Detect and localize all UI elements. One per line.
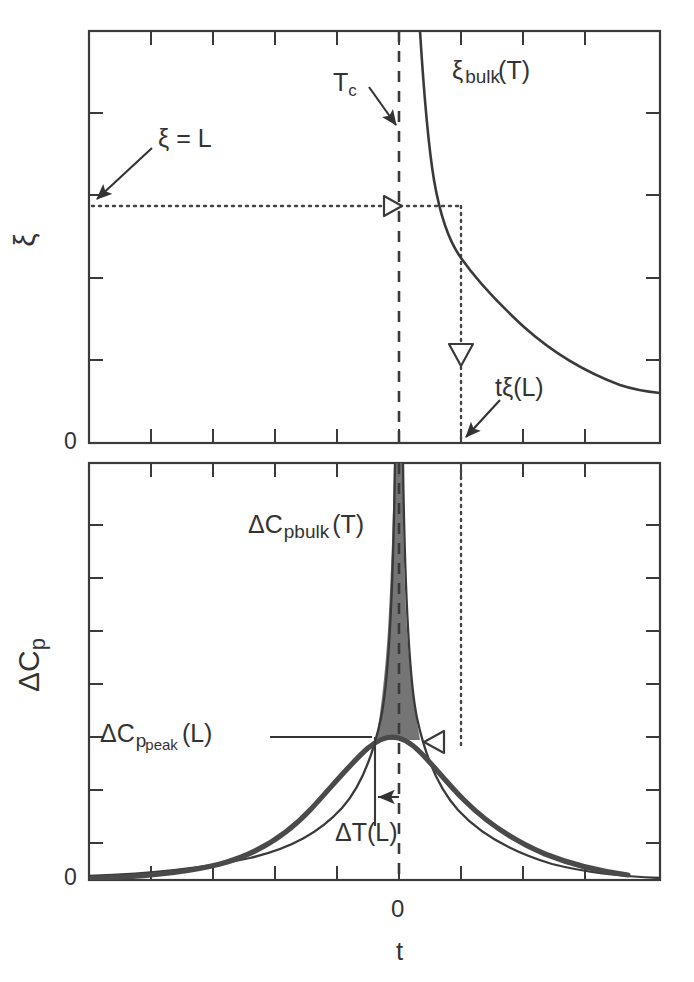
bulk-cp-right-branch: [403, 463, 660, 878]
t-xi-L-label: tξ(L): [495, 375, 544, 400]
x-axis-title: t: [396, 938, 403, 964]
left-triangle-marker: [424, 731, 444, 753]
down-triangle-marker: [449, 344, 473, 366]
peak-cp-subscript-peak: peak: [145, 736, 178, 753]
lower-y-axis-subscript: p: [25, 638, 50, 650]
lower-y-axis-label: ΔCp: [14, 638, 44, 692]
xi-bulk-curve: [420, 31, 660, 393]
tc-label: Tc: [333, 70, 357, 95]
upper-panel: [89, 31, 660, 443]
xi-equals-L-label: ξ = L: [158, 126, 212, 151]
peak-cp-tail: (L): [182, 719, 213, 747]
xi-bulk-subscript: bulk: [465, 66, 500, 87]
xi-bulk-tail: (T): [498, 56, 530, 84]
tc-leader-arrow: [369, 87, 396, 125]
xi-equals-L-leader-arrow: [97, 148, 152, 199]
upper-panel-frame: [89, 31, 660, 443]
lower-y-zero-label: 0: [64, 866, 77, 889]
delta-T-label: ΔT(L): [335, 820, 398, 845]
peak-cp-label: ΔCppeak(L): [100, 721, 212, 746]
figure-root: ξbulk(T) Tc ξ = L tξ(L) ξ 0 ΔCpbulk(T) Δ…: [0, 0, 694, 982]
peak-cp-curve: [92, 737, 628, 878]
upper-y-axis-label: ξ: [10, 233, 40, 246]
tc-subscript: c: [348, 81, 357, 100]
bulk-cp-subscript: pbulk: [284, 521, 329, 542]
upper-y-zero-label: 0: [64, 430, 77, 453]
x-axis-zero-label: 0: [391, 897, 404, 921]
bulk-cp-tail: (T): [332, 510, 364, 538]
t-xi-L-leader-arrow: [466, 400, 500, 437]
bulk-cp-label: ΔCpbulk(T): [248, 512, 364, 537]
xi-bulk-curve-label: ξbulk(T): [452, 58, 530, 83]
